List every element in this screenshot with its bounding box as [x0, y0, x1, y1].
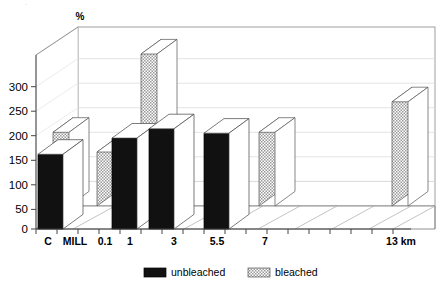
- chart-canvas: .: [0, 0, 443, 295]
- x-tick-7: 7: [262, 235, 268, 247]
- legend-swatch-bleached: [248, 268, 270, 277]
- y-tick-0: 0: [22, 223, 28, 235]
- bar-bleached-7: [259, 118, 295, 206]
- x-tick-c: C: [44, 235, 52, 247]
- bar-unbleached-55: [204, 119, 249, 229]
- y-axis-unit-label: %: [76, 11, 85, 22]
- svg-text:.: .: [25, 0, 27, 6]
- chart-legend: unbleached bleached: [144, 266, 318, 278]
- bar-chart-figure: .: [0, 0, 443, 295]
- y-tick-250: 250: [9, 105, 28, 117]
- y-tick-50: 50: [15, 203, 28, 215]
- x-axis: C MILL 0.1 1 3 5.5 7 13 km: [36, 229, 416, 247]
- x-tick-3: 3: [171, 235, 177, 247]
- legend-swatch-unbleached: [144, 268, 166, 277]
- x-tick-mill: MILL: [63, 235, 88, 247]
- y-tick-150: 150: [9, 154, 28, 166]
- y-tick-300: 300: [9, 81, 28, 93]
- clipped-title-remnant: .: [25, 0, 27, 6]
- bar-unbleached-3: [149, 114, 194, 229]
- x-tick-1: 1: [127, 235, 133, 247]
- legend-item-unbleached: unbleached: [144, 266, 225, 278]
- legend-item-bleached: bleached: [248, 266, 318, 278]
- legend-label-bleached: bleached: [275, 266, 318, 278]
- bar-unbleached-c: [38, 140, 83, 229]
- y-tick-100: 100: [9, 179, 28, 191]
- legend-label-unbleached: unbleached: [171, 266, 225, 278]
- bar-bleached-13km: [392, 87, 428, 206]
- y-tick-200: 200: [9, 130, 28, 142]
- x-tick-13km: 13 km: [386, 235, 416, 247]
- x-tick-55: 5.5: [210, 235, 225, 247]
- x-tick-01: 0.1: [98, 235, 113, 247]
